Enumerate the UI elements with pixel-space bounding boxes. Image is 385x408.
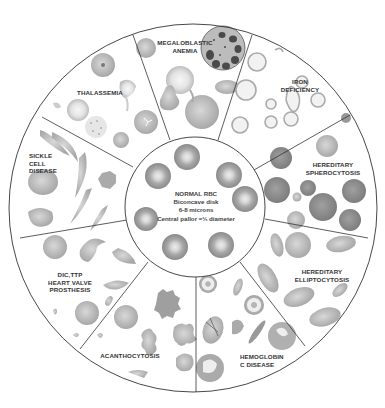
label-acanthocytosis: ACANTHOCYTOSIS — [95, 352, 165, 360]
sickle-cells — [28, 130, 116, 231]
label-sickle-cell-disease: SICKLE CELL DISEASE — [29, 152, 69, 175]
label-hereditary-spherocytosis: HEREDITARY SPHEROCYTOSIS — [298, 161, 368, 176]
normal-rbc-label: NORMAL RBC Biconcave disk 6-8 microns Ce… — [140, 190, 252, 223]
rbc-morphology-diagram: NORMAL RBC Biconcave disk 6-8 microns Ce… — [0, 0, 385, 408]
acanthocytosis-cells — [97, 289, 197, 378]
center-line-pallor: Central pallor ≈⅓ diameter — [140, 215, 252, 223]
label-thalassemia: THALASSEMIA — [70, 89, 130, 97]
label-megaloblastic-anemia: MEGALOBLASTIC ANEMIA — [150, 39, 220, 54]
label-dic-ttp: DIC,TTP HEART VALVE PROSTHESIS — [40, 271, 100, 294]
thalassemia-cells — [53, 53, 158, 148]
center-line-size: 6-8 microns — [140, 206, 252, 214]
center-title: NORMAL RBC — [140, 190, 252, 198]
label-iron-deficiency: IRON DEFICIENCY — [270, 78, 330, 93]
center-line-shape: Biconcave disk — [140, 198, 252, 206]
label-hemoglobin-c-disease: HEMOGLOBIN C DISEASE — [240, 353, 300, 368]
label-hereditary-elliptocytosis: HEREDITARY ELLIPTOCYTOSIS — [285, 268, 359, 283]
